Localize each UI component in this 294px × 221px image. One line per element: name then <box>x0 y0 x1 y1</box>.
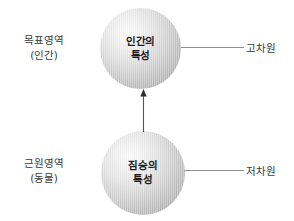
label-source-domain-line2: (동물) <box>6 171 82 186</box>
label-source-domain: 근원영역 (동물) <box>6 156 82 186</box>
connector-line-high-dimension <box>180 47 244 48</box>
node-human-characteristics-line1: 인간의 <box>126 35 155 47</box>
label-target-domain-line2: (인간) <box>6 48 82 63</box>
node-beast-characteristics: 짐승의 특성 <box>101 131 185 215</box>
diagram-canvas: 목표영역 (인간) 근원영역 (동물) 고차원 저차원 인간의 특성 짐승의 특… <box>0 0 294 221</box>
label-target-domain: 목표영역 (인간) <box>6 33 82 63</box>
label-high-dimension: 고차원 <box>246 40 292 55</box>
label-low-dimension: 저차원 <box>246 163 292 178</box>
node-human-characteristics-label: 인간의 특성 <box>126 34 155 62</box>
node-beast-characteristics-line1: 짐승의 <box>128 159 157 171</box>
node-beast-characteristics-line2: 특성 <box>128 172 157 186</box>
label-target-domain-line1: 목표영역 <box>24 34 63 46</box>
connector-line-low-dimension <box>183 170 244 171</box>
label-source-domain-line1: 근원영역 <box>24 157 63 169</box>
node-beast-characteristics-label: 짐승의 특성 <box>128 158 157 186</box>
node-human-characteristics-line2: 특성 <box>126 48 155 62</box>
mapping-arrow-up-icon <box>139 89 148 132</box>
node-human-characteristics: 인간의 특성 <box>100 8 181 89</box>
